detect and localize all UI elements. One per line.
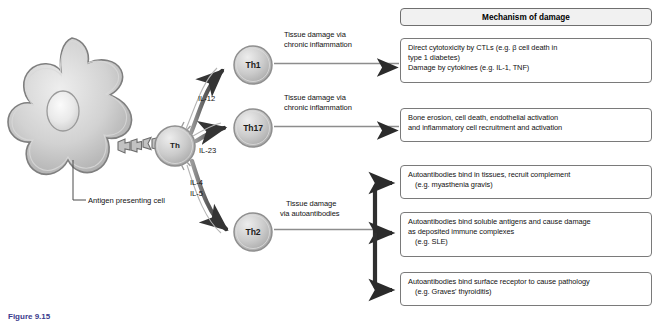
pathway-label-th1-line2: chronic inflammation — [284, 40, 352, 50]
figure-container: Mechanism of damage Direct cytotoxicity … — [0, 0, 658, 321]
pathway-label-th17-line2: chronic inflammation — [284, 103, 352, 113]
mechanism-box-autoantibody-tissue: Autoantibodies bind in tissues, recruit … — [400, 165, 652, 199]
box1-line1: Direct cytotoxicity by CTLs (e.g. β cell… — [408, 43, 645, 53]
arrow-th-to-th17 — [196, 128, 224, 141]
th17-cell-label: Th17 — [236, 123, 270, 133]
cytokine-label-il23: IL-23 — [199, 146, 216, 155]
mechanism-of-damage-header: Mechanism of damage — [400, 8, 652, 26]
figure-caption: Figure 9.15 — [8, 312, 50, 321]
arrow-th2-branch — [375, 183, 392, 290]
th1-cell-label: Th1 — [238, 60, 268, 70]
pathway-label-th2-line2: via autoantibodies — [280, 209, 340, 219]
th2-cell-label: Th2 — [238, 227, 268, 237]
box5-line1: Autoantibodies bind surface receptor to … — [408, 277, 645, 287]
mechanism-box-th17: Bone erosion, cell death, endothelial ac… — [400, 108, 652, 142]
pathway-label-th1-line1: Tissue damage via — [284, 30, 346, 40]
arrow-th17-to-box2 — [274, 127, 399, 131]
cytokine-label-il4: IL-4 — [190, 178, 203, 187]
mechanism-box-surface-receptor: Autoantibodies bind surface receptor to … — [400, 272, 652, 306]
cytokine-label-il12: IL-12 — [198, 94, 215, 103]
antigen-presenting-cell-label: Antigen presenting cell — [88, 196, 165, 205]
antigen-presenting-cell-shape — [8, 38, 132, 174]
arrow-th2-trunk — [274, 230, 375, 234]
box5-line2: (e.g. Graves' thyroiditis) — [408, 287, 645, 297]
arrow-th1-to-box1 — [274, 64, 399, 68]
box4-line2: as deposited immune complexes — [408, 227, 645, 237]
th-cell-label: Th — [160, 141, 190, 150]
cytokine-label-il5: IL-5 — [190, 189, 203, 198]
apc-nucleus — [47, 91, 79, 131]
pathway-label-th17-line1: Tissue damage via — [284, 93, 346, 103]
mechanism-box-th1: Direct cytotoxicity by CTLs (e.g. β cell… — [400, 38, 652, 83]
box4-line3: (e.g. SLE) — [408, 237, 645, 247]
box1-line3: Damage by cytokines (e.g. IL-1, TNF) — [408, 63, 645, 73]
box4-line1: Autoantibodies bind soluble antigens and… — [408, 217, 645, 227]
box1-line2: type 1 diabetes) — [408, 53, 645, 63]
box3-line1: Autoantibodies bind in tissues, recruit … — [408, 170, 645, 180]
box2-line1: Bone erosion, cell death, endothelial ac… — [408, 113, 645, 123]
mechanism-box-immune-complex: Autoantibodies bind soluble antigens and… — [400, 212, 652, 257]
pathway-label-th2-line1: Tissue damage — [286, 199, 336, 209]
box3-line2: (e.g. myasthenia gravis) — [408, 180, 645, 190]
box2-line2: and inflammatory cell recruitment and ac… — [408, 123, 645, 133]
